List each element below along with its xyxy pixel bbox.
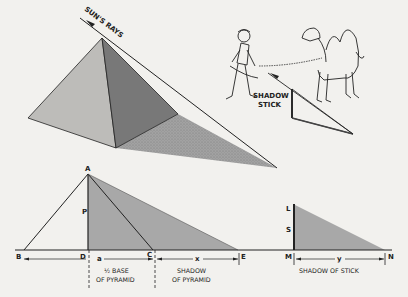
label-C: C (147, 251, 152, 259)
label-P: P (82, 208, 87, 216)
label-y: y (337, 255, 342, 263)
stick-shadow-triangle (295, 205, 385, 250)
pyramid-shadow-diagram: SUN'S RAYS SHADOW STICK (0, 0, 408, 297)
shadow-pyramid-caption-2: OF PYRAMID (172, 276, 211, 283)
rope (259, 58, 322, 66)
pyramid-illustration: SUN'S RAYS (28, 5, 277, 168)
half-base-caption-2: OF PYRAMID (96, 276, 135, 283)
shadow-stick-caption: SHADOW OF STICK (299, 267, 360, 274)
label-B: B (16, 253, 21, 261)
half-base-caption-1: ½ BASE (104, 267, 129, 274)
shadow-pyramid-caption-1: SHADOW (177, 267, 207, 274)
label-M: M (285, 253, 292, 261)
label-x: x (195, 255, 200, 263)
pyramid-left-face (28, 38, 116, 148)
man-figure (226, 30, 258, 100)
shadow-stick-label-2: STICK (258, 101, 282, 109)
label-A: A (85, 165, 91, 173)
label-L: L (286, 205, 291, 213)
label-D: D (80, 253, 86, 261)
label-a: a (97, 255, 102, 263)
shadow-stick-label-1: SHADOW (253, 92, 289, 100)
camel-figure (302, 28, 364, 102)
label-N: N (388, 253, 394, 261)
label-E: E (241, 253, 246, 261)
label-S: S (286, 226, 291, 234)
